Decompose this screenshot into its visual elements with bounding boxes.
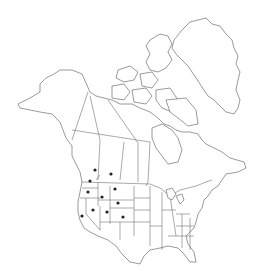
occurrence-dot: British Columbia	[93, 168, 96, 171]
occurrence-dot: Idaho	[100, 195, 103, 198]
arctic-islands-outline	[146, 34, 172, 72]
occurrence-dot: California	[80, 214, 83, 217]
occurrence-dot: Alberta	[109, 172, 112, 175]
occurrence-dot: Utah	[105, 210, 108, 213]
arctic-island	[132, 88, 152, 104]
mainland-outline	[18, 70, 246, 264]
arctic-island	[116, 66, 138, 82]
arctic-island	[140, 72, 158, 88]
occurrence-dot: Washington	[88, 179, 91, 182]
occurrence-dot: Nevada	[91, 208, 94, 211]
occurrence-dot: Montana	[113, 187, 116, 190]
occurrence-dot: Oregon	[86, 190, 89, 193]
arctic-island	[112, 84, 130, 100]
occurrence-dot: Colorado	[121, 215, 124, 218]
north-america-map: British ColumbiaAlbertaWashingtonMontana…	[0, 0, 261, 271]
arctic-island	[166, 98, 198, 126]
occurrence-dot: Wyoming	[116, 201, 119, 204]
